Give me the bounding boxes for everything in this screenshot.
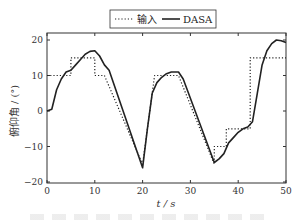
x-tick-label: 40 — [232, 186, 244, 196]
x-tick-label: 10 — [89, 186, 101, 196]
axis-ticks: 01020304050−20−1001020 — [24, 33, 292, 196]
pitch-angle-chart: 01020304050−20−1001020 输入 DASA t / s 俯仰角… — [0, 0, 300, 220]
y-tick-label: 0 — [37, 106, 43, 116]
legend-label-dasa: DASA — [183, 14, 213, 25]
x-tick-label: 50 — [280, 186, 292, 196]
x-tick-label: 0 — [44, 186, 50, 196]
x-tick-label: 20 — [137, 186, 149, 196]
y-tick-label: −10 — [24, 142, 43, 152]
y-tick-label: 20 — [32, 35, 44, 45]
legend-label-input: 输入 — [137, 13, 157, 25]
plot-frame — [47, 33, 286, 183]
y-tick-label: 10 — [32, 71, 44, 81]
y-tick-label: −20 — [24, 177, 43, 187]
series-dasa-line — [47, 40, 286, 168]
legend: 输入 DASA — [110, 10, 216, 28]
series-layer — [47, 40, 286, 168]
x-axis-label: t / s — [157, 198, 176, 209]
y-axis-label: 俯仰角 / (°) — [8, 85, 20, 138]
figure-caption-cropped — [30, 214, 270, 220]
x-tick-label: 30 — [185, 186, 197, 196]
